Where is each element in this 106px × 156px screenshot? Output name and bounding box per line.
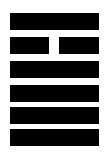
hexagram-line-1-solid (0, 13, 106, 30)
line-segment-left (10, 37, 49, 54)
hexagram-line-5-solid (0, 107, 106, 124)
line-segment-full (10, 85, 99, 102)
hexagram-line-4-solid (0, 85, 106, 102)
hexagram-line-2-broken (0, 37, 106, 54)
line-break-gap (49, 37, 59, 54)
line-segment-full (10, 107, 99, 124)
hexagram-line-6-solid (0, 129, 106, 146)
line-segment-full (10, 129, 99, 146)
line-segment-full (10, 13, 99, 30)
line-segment-right (59, 37, 99, 54)
hexagram-figure (0, 0, 106, 156)
hexagram-line-3-solid (0, 61, 106, 78)
line-segment-full (10, 61, 99, 78)
